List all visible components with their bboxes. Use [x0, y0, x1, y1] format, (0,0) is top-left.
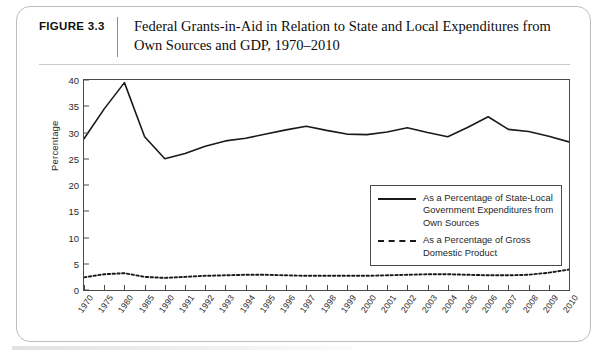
gdp-series-line: [84, 270, 569, 278]
y-axis-tick-label: 40: [68, 75, 79, 86]
x-axis-tick-mark: [448, 285, 449, 290]
x-axis-tick-label: 2003: [419, 293, 438, 315]
x-axis-tick-label: 2005: [460, 293, 479, 315]
x-axis-tick-label: 1993: [217, 293, 236, 315]
x-axis-tick-label: 2002: [399, 293, 418, 315]
y-axis-tick-label: 20: [68, 180, 79, 191]
x-axis-tick-mark: [104, 285, 105, 290]
x-axis-tick-label: 1998: [318, 293, 337, 315]
legend-item-state-local: As a Percentage of State-Local Governmen…: [378, 192, 554, 229]
page-footer-rule: [12, 346, 352, 350]
chart-area: Percentage 05101520253035401970197519801…: [51, 75, 571, 330]
y-axis-label: Percentage: [49, 120, 60, 171]
x-axis-tick-mark: [327, 285, 328, 290]
dashed-line-key-icon: [378, 235, 416, 247]
legend-label-gdp: As a Percentage of Gross Domestic Produc…: [423, 234, 554, 259]
solid-line-key-icon: [378, 193, 416, 205]
x-axis-tick-mark: [145, 285, 146, 290]
figure-container: FIGURE 3.3 Federal Grants-in-Aid in Rela…: [16, 6, 591, 342]
x-axis-tick-label: 1995: [258, 293, 277, 315]
x-axis-tick-mark: [306, 285, 307, 290]
figure-number: FIGURE 3.3: [39, 17, 117, 32]
x-axis-tick-label: 2000: [359, 293, 378, 315]
x-axis-tick-label: 1996: [278, 293, 297, 315]
x-axis-tick-mark: [428, 285, 429, 290]
x-axis-tick-mark: [569, 285, 570, 290]
y-axis-tick-label: 35: [68, 101, 79, 112]
state-local-series-line: [84, 83, 569, 159]
header-divider: [117, 17, 118, 57]
y-axis-tick-mark: [84, 237, 89, 238]
x-axis-tick-mark: [124, 285, 125, 290]
y-axis-tick-mark: [84, 158, 89, 159]
x-axis-tick-mark: [367, 285, 368, 290]
legend-label-state-local: As a Percentage of State-Local Governmen…: [423, 192, 554, 229]
x-axis-tick-mark: [407, 285, 408, 290]
x-axis-tick-mark: [387, 285, 388, 290]
x-axis-tick-label: 1970: [76, 293, 95, 315]
x-axis-tick-mark: [508, 285, 509, 290]
x-axis-tick-label: 1992: [197, 293, 216, 315]
x-axis-tick-mark: [347, 285, 348, 290]
y-axis-tick-mark: [84, 185, 89, 186]
x-axis-tick-label: 1991: [177, 293, 196, 315]
x-axis-tick-label: 1994: [237, 293, 256, 315]
x-axis-tick-label: 1999: [339, 293, 358, 315]
x-axis-tick-mark: [549, 285, 550, 290]
x-axis-tick-label: 2001: [379, 293, 398, 315]
x-axis-tick-mark: [225, 285, 226, 290]
x-axis-tick-mark: [165, 285, 166, 290]
x-axis-tick-label: 1990: [157, 293, 176, 315]
x-axis-tick-label: 2010: [561, 293, 580, 315]
x-axis-tick-mark: [468, 285, 469, 290]
x-axis-tick-label: 2007: [500, 293, 519, 315]
x-axis-tick-label: 2009: [541, 293, 560, 315]
figure-header: FIGURE 3.3 Federal Grants-in-Aid in Rela…: [17, 17, 590, 65]
y-axis-tick-label: 10: [68, 232, 79, 243]
x-axis-tick-label: 1980: [116, 293, 135, 315]
x-axis-tick-label: 1997: [298, 293, 317, 315]
x-axis-tick-label: 2006: [480, 293, 499, 315]
y-axis-tick-mark: [84, 132, 89, 133]
x-axis-tick-mark: [286, 285, 287, 290]
x-axis-tick-mark: [84, 285, 85, 290]
y-axis-tick-label: 15: [68, 206, 79, 217]
x-axis-tick-label: 2008: [520, 293, 539, 315]
y-axis-tick-mark: [84, 106, 89, 107]
x-axis-tick-mark: [185, 285, 186, 290]
x-axis-tick-mark: [205, 285, 206, 290]
x-axis-tick-label: 2004: [440, 293, 459, 315]
y-axis-tick-mark: [84, 80, 89, 81]
y-axis-tick-mark: [84, 263, 89, 264]
chart-legend: As a Percentage of State-Local Governmen…: [370, 185, 562, 266]
x-axis-tick-mark: [488, 285, 489, 290]
x-axis-tick-label: 1975: [96, 293, 115, 315]
legend-item-gdp: As a Percentage of Gross Domestic Produc…: [378, 234, 554, 259]
y-axis-tick-label: 25: [68, 153, 79, 164]
header-rule: [39, 64, 570, 65]
x-axis-tick-mark: [266, 285, 267, 290]
x-axis-tick-label: 1985: [136, 293, 155, 315]
x-axis-tick-mark: [246, 285, 247, 290]
y-axis-tick-mark: [84, 211, 89, 212]
y-axis-tick-label: 0: [74, 285, 79, 296]
figure-title: Federal Grants-in-Aid in Relation to Sta…: [134, 17, 564, 54]
x-axis-tick-mark: [529, 285, 530, 290]
y-axis-tick-label: 5: [74, 258, 79, 269]
y-axis-tick-label: 30: [68, 127, 79, 138]
